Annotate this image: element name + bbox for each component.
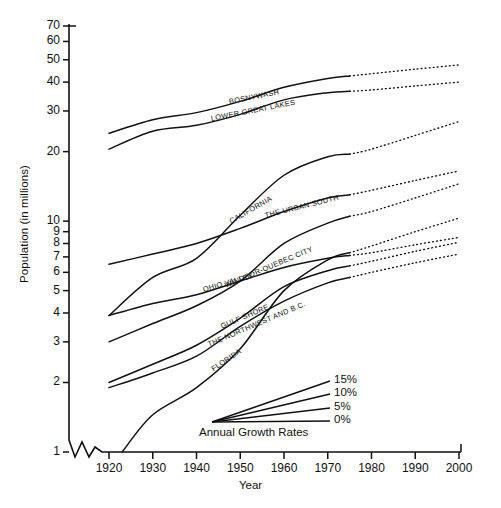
series-ohio-valley: [109, 237, 459, 315]
series-the-urban-south: [109, 171, 459, 264]
y-tick-label: 6: [20, 264, 60, 278]
chart-figure: Population (in millions) Year 1234567891…: [0, 0, 501, 508]
y-tick-label: 50: [20, 52, 60, 66]
x-tick-label: 1970: [305, 461, 351, 475]
x-tick-label: 1990: [392, 461, 438, 475]
y-tick-label: 7: [20, 249, 60, 263]
x-tick-label: 1920: [86, 461, 132, 475]
y-tick-label: 5: [20, 283, 60, 297]
y-tick-label: 10: [20, 213, 60, 227]
y-tick-label: 20: [20, 144, 60, 158]
y-tick-label: 2: [20, 374, 60, 388]
growth-rate-legend-fan: [212, 381, 330, 422]
legend-entry-5pct: 5%: [334, 400, 351, 412]
series-lower-great-lakes: [109, 82, 459, 149]
legend-entry-0pct: 0%: [334, 413, 351, 425]
legend-entry-15pct: 15%: [334, 373, 357, 385]
x-tick-label: 1940: [174, 461, 220, 475]
x-tick-label: 2000: [436, 461, 482, 475]
chart-axes: [63, 24, 461, 459]
y-tick-label: 70: [20, 18, 60, 32]
x-axis-title: Year: [0, 479, 501, 491]
y-tick-label: 3: [20, 334, 60, 348]
x-tick-label: 1950: [217, 461, 263, 475]
x-tick-label: 1980: [349, 461, 395, 475]
x-tick-label: 1930: [130, 461, 176, 475]
legend-entry-10pct: 10%: [334, 386, 357, 398]
legend-title: Annual Growth Rates: [199, 426, 308, 438]
y-tick-label: 60: [20, 33, 60, 47]
y-tick-label: 40: [20, 74, 60, 88]
y-tick-label: 30: [20, 103, 60, 117]
y-tick-label: 4: [20, 305, 60, 319]
y-tick-label: 1: [20, 444, 60, 458]
x-tick-label: 1960: [261, 461, 307, 475]
